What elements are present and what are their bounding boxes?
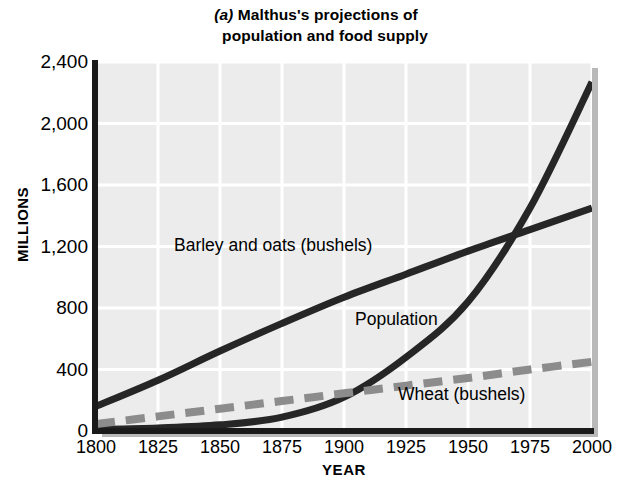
y-axis-title: MILLIONS xyxy=(14,165,31,285)
chart-title-text-1: Malthus's projections of xyxy=(238,6,418,23)
y-tick-label: 2,400 xyxy=(2,52,88,71)
chart-title-line-1: (a) Malthus's projections of xyxy=(0,4,624,25)
series-label-population: Population xyxy=(355,310,438,329)
x-tick-label: 1800 xyxy=(61,437,131,457)
y-tick-label: 800 xyxy=(2,298,88,317)
x-tick-label: 1975 xyxy=(495,437,565,457)
x-tick-label: 1900 xyxy=(309,437,379,457)
y-tick-label: 2,000 xyxy=(2,114,88,133)
chart-title: (a) Malthus's projections of population … xyxy=(0,4,624,46)
y-tick-label: 400 xyxy=(2,360,88,379)
series-label-wheat: Wheat (bushels) xyxy=(398,385,525,404)
series-label-barley-and-oats: Barley and oats (bushels) xyxy=(174,236,372,255)
figure-panel-a: (a) Malthus's projections of population … xyxy=(0,0,624,493)
x-tick-label: 1825 xyxy=(123,437,193,457)
chart-title-line-2: population and food supply xyxy=(0,25,624,46)
x-tick-label: 1950 xyxy=(433,437,503,457)
y-axis-line xyxy=(92,60,98,433)
x-axis-line xyxy=(92,428,594,434)
x-tick-label: 2000 xyxy=(557,437,624,457)
x-axis-title: YEAR xyxy=(96,461,592,478)
x-tick-label: 1850 xyxy=(185,437,255,457)
x-tick-label: 1875 xyxy=(247,437,317,457)
x-tick-label: 1925 xyxy=(371,437,441,457)
panel-letter: (a) xyxy=(214,6,233,23)
